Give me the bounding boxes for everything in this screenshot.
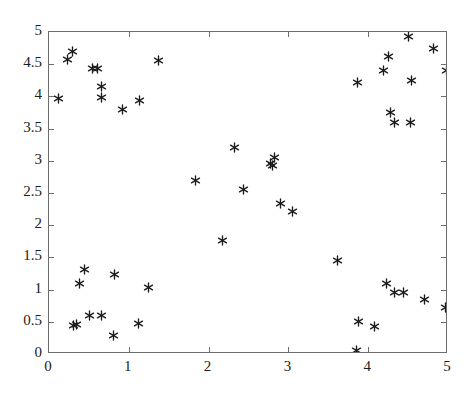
- data-point-marker: [53, 93, 64, 104]
- data-point-marker: [398, 287, 409, 298]
- y-axis-tick: [441, 64, 446, 65]
- y-tick-label: 3: [0, 151, 42, 168]
- y-axis-tick: [441, 257, 446, 258]
- y-axis-tick: [441, 290, 446, 291]
- data-point-marker: [405, 117, 416, 128]
- y-tick-label: 4.5: [0, 54, 42, 71]
- y-tick-label: 1.5: [0, 247, 42, 264]
- y-axis-tick: [49, 322, 54, 323]
- data-point-marker: [406, 75, 417, 86]
- data-point-marker: [74, 278, 85, 289]
- y-axis-tick: [49, 129, 54, 130]
- x-tick-label: 5: [427, 358, 467, 375]
- data-point-marker: [109, 269, 120, 280]
- y-tick-label: 4: [0, 86, 42, 103]
- x-tick-label: 3: [267, 358, 307, 375]
- y-tick-label: 5: [0, 22, 42, 39]
- data-point-marker: [267, 160, 278, 171]
- y-axis-tick: [49, 64, 54, 65]
- x-axis-tick: [368, 32, 369, 37]
- x-tick-label: 1: [108, 358, 148, 375]
- x-tick-label: 2: [188, 358, 228, 375]
- plot-area: [48, 31, 447, 353]
- y-tick-label: 3.5: [0, 119, 42, 136]
- y-axis-tick: [441, 193, 446, 194]
- data-point-marker: [96, 310, 107, 321]
- data-point-marker: [92, 63, 103, 74]
- y-axis-tick: [441, 161, 446, 162]
- data-point-marker: [153, 55, 164, 66]
- data-point-marker: [378, 65, 389, 76]
- data-point-marker: [389, 117, 400, 128]
- data-point-marker: [238, 184, 249, 195]
- data-points-layer: [49, 32, 446, 352]
- x-axis-tick: [288, 347, 289, 352]
- data-point-marker: [67, 46, 78, 57]
- y-tick-label: 0.5: [0, 312, 42, 329]
- y-tick-label: 1: [0, 280, 42, 297]
- x-axis-tick: [288, 32, 289, 37]
- data-point-marker: [332, 255, 343, 266]
- data-point-marker: [383, 51, 394, 62]
- data-point-marker: [217, 235, 228, 246]
- y-axis-tick: [49, 257, 54, 258]
- data-point-marker: [117, 104, 128, 115]
- y-tick-label: 2.5: [0, 183, 42, 200]
- data-point-marker: [353, 316, 364, 327]
- x-axis-tick: [209, 347, 210, 352]
- y-axis-tick: [49, 193, 54, 194]
- y-axis-tick: [49, 290, 54, 291]
- y-axis-tick: [49, 96, 54, 97]
- x-axis-tick: [209, 32, 210, 37]
- data-point-marker: [96, 92, 107, 103]
- y-axis-tick: [49, 225, 54, 226]
- scatter-plot-figure: 012345 00.511.522.533.544.55: [0, 0, 473, 396]
- data-point-marker: [351, 345, 362, 352]
- data-point-marker: [133, 318, 144, 329]
- data-point-marker: [71, 319, 82, 330]
- x-axis-tick: [368, 347, 369, 352]
- y-tick-label: 2: [0, 215, 42, 232]
- data-point-marker: [428, 43, 439, 54]
- data-point-marker: [143, 282, 154, 293]
- data-point-marker: [403, 32, 414, 42]
- y-tick-label: 0: [0, 344, 42, 361]
- y-axis-tick: [441, 129, 446, 130]
- data-point-marker: [369, 321, 380, 332]
- data-point-marker: [96, 81, 107, 92]
- x-tick-label: 4: [347, 358, 387, 375]
- data-point-marker: [287, 206, 298, 217]
- data-point-marker: [352, 77, 363, 88]
- data-point-marker: [190, 175, 201, 186]
- data-point-marker: [440, 302, 446, 313]
- data-point-marker: [79, 264, 90, 275]
- y-axis-tick: [441, 225, 446, 226]
- data-point-marker: [84, 310, 95, 321]
- y-axis-tick: [441, 96, 446, 97]
- y-axis-tick: [49, 161, 54, 162]
- data-point-marker: [419, 294, 430, 305]
- data-point-marker: [229, 142, 240, 153]
- data-point-marker: [108, 330, 119, 341]
- data-point-marker: [275, 198, 286, 209]
- data-point-marker: [134, 95, 145, 106]
- x-axis-tick: [129, 32, 130, 37]
- x-axis-tick: [129, 347, 130, 352]
- y-axis-tick: [441, 322, 446, 323]
- data-point-marker: [441, 65, 446, 76]
